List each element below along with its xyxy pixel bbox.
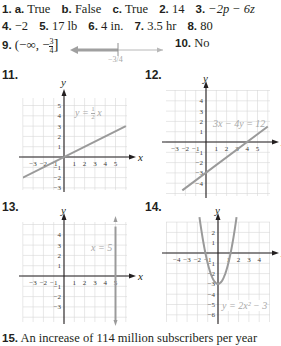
answer-value: 3.5 hr <box>147 19 176 33</box>
svg-text:−1: −1 <box>54 164 62 172</box>
svg-text:1: 1 <box>73 279 77 287</box>
answer-number: 5. <box>39 20 49 32</box>
svg-text:3: 3 <box>93 279 97 287</box>
svg-text:5: 5 <box>114 279 118 287</box>
graph-11-title: 11. <box>2 68 18 82</box>
svg-text:1: 1 <box>215 145 219 153</box>
svg-text:3: 3 <box>93 160 97 168</box>
answer-line-2: 4. −2 5. 17 lb 6. 4 in. 7. 3.5 hr 8. 80 <box>2 19 221 34</box>
svg-text:3: 3 <box>58 242 62 250</box>
svg-text:3: 3 <box>58 123 62 131</box>
svg-text:x: x <box>137 270 143 282</box>
svg-text:5: 5 <box>114 160 118 168</box>
svg-text:−2: −2 <box>40 279 48 287</box>
svg-text:−3: −3 <box>171 145 179 153</box>
answer-line-1: 1. a. True b. False c. True 2. 14 3. −2p… <box>2 2 263 17</box>
answer-value: True <box>27 2 50 16</box>
svg-text:−3: −3 <box>196 169 204 177</box>
svg-text:y: y <box>60 76 66 88</box>
svg-text:−3: −3 <box>54 303 62 311</box>
answer-number: 2. <box>159 3 169 15</box>
svg-text:−5: −5 <box>208 301 216 309</box>
sub-label: c. <box>112 3 122 15</box>
graph-13: xy−3−2−112345−3−2−11234 <box>19 204 143 326</box>
svg-text:y: y <box>202 72 208 84</box>
svg-text:−2: −2 <box>40 160 48 168</box>
svg-text:−4: −4 <box>196 180 204 188</box>
svg-text:−3: −3 <box>208 280 216 288</box>
answer-value: 14 <box>172 2 185 16</box>
svg-text:−1: −1 <box>54 283 62 291</box>
answer-9: 9. (−∞, −34] <box>2 36 58 55</box>
svg-text:2: 2 <box>200 118 204 126</box>
svg-text:1: 1 <box>58 262 62 270</box>
graph-14-title: 14. <box>145 200 162 214</box>
svg-text:x: x <box>137 151 143 163</box>
svg-text:−1: −1 <box>50 160 58 168</box>
svg-text:1: 1 <box>58 143 62 151</box>
answer-number: 6. <box>88 20 98 32</box>
svg-text:−1: −1 <box>204 256 212 264</box>
number-line-label: −3/4 <box>108 55 123 64</box>
svg-text:1: 1 <box>200 128 204 136</box>
answer-number: 15. <box>2 332 18 344</box>
graph-12-equation: 3x − 4y = 12 <box>213 118 265 129</box>
svg-text:4: 4 <box>58 112 62 120</box>
svg-text:2: 2 <box>212 229 216 237</box>
svg-text:1: 1 <box>212 239 216 247</box>
answer-value: An increase of 114 million subscribers p… <box>20 331 257 345</box>
answer-value: True <box>125 2 148 16</box>
svg-text:−2: −2 <box>208 270 216 278</box>
answer-value: −2 <box>15 19 28 33</box>
svg-text:−2: −2 <box>54 293 62 301</box>
svg-text:−2: −2 <box>182 145 190 153</box>
svg-text:x: x <box>280 136 281 148</box>
svg-text:2: 2 <box>83 279 87 287</box>
svg-text:−4: −4 <box>173 256 181 264</box>
svg-text:3: 3 <box>247 256 251 264</box>
svg-text:3: 3 <box>235 145 239 153</box>
answer-value: False <box>75 2 101 16</box>
svg-text:x: x <box>280 247 281 259</box>
svg-text:4: 4 <box>245 145 249 153</box>
svg-text:−1: −1 <box>208 260 216 268</box>
svg-text:−3: −3 <box>183 256 191 264</box>
svg-text:4: 4 <box>103 160 107 168</box>
interval-open: (−∞, − <box>15 37 50 52</box>
graph-curve <box>199 217 236 284</box>
svg-text:−1: −1 <box>196 149 204 157</box>
svg-text:2: 2 <box>83 160 87 168</box>
svg-text:y: y <box>60 204 66 216</box>
svg-text:−3: −3 <box>54 184 62 192</box>
answer-number: 4. <box>2 20 12 32</box>
svg-text:−4: −4 <box>208 291 216 299</box>
graph-13-equation: x = 5 <box>91 242 112 253</box>
svg-text:y: y <box>214 204 220 216</box>
svg-text:2: 2 <box>237 256 241 264</box>
svg-text:1: 1 <box>227 256 231 264</box>
answer-number: 3. <box>196 3 206 15</box>
graph-12-title: 12. <box>145 68 162 82</box>
interval-close: ] <box>53 36 58 52</box>
svg-text:−1: −1 <box>192 145 200 153</box>
svg-text:3: 3 <box>200 108 204 116</box>
answer-number: 7. <box>134 20 144 32</box>
answer-value: −2p − 6z <box>208 2 255 16</box>
svg-text:2: 2 <box>225 145 229 153</box>
svg-text:4: 4 <box>257 256 261 264</box>
graph-13-title: 13. <box>2 200 19 214</box>
answer-value: 17 lb <box>52 19 77 33</box>
svg-text:5: 5 <box>256 145 260 153</box>
graph-11: xy−3−2−112345−3−2−112345 <box>19 76 143 192</box>
svg-text:−6: −6 <box>208 311 216 319</box>
graph-14-equation: y = 2x² − 3 <box>222 300 267 311</box>
answer-number: 8. <box>187 20 197 32</box>
svg-text:−2: −2 <box>54 174 62 182</box>
graph-11-equation: y = 12 x <box>75 106 102 121</box>
answer-number: 1. <box>2 3 12 15</box>
answer-value: 80 <box>200 19 213 33</box>
graph-curve <box>23 126 126 178</box>
sub-label: b. <box>62 3 72 15</box>
graph-12: xy−3−2−112345−4−3−2−11234 <box>162 72 281 198</box>
graph-curve <box>182 127 267 191</box>
